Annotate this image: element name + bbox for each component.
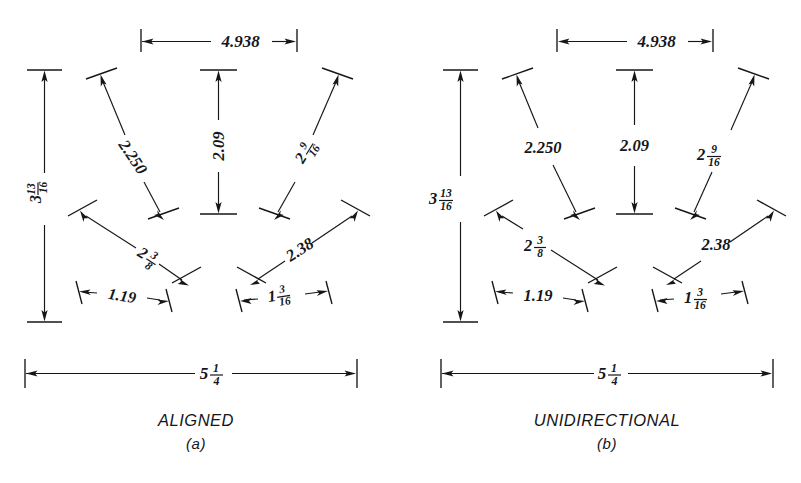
dim-label-2-9-16-b: 2 9 16	[696, 143, 721, 168]
subcaption-b: (b)	[597, 435, 617, 452]
dim-label-209-b: 2.09	[619, 136, 649, 155]
dim-label-238-a: 2.38	[282, 234, 317, 266]
svg-text:2.09: 2.09	[209, 132, 228, 162]
dim-label-1-3-16-a: 1 3 16	[266, 282, 292, 310]
dim-label-2-3-8-b: 2 3 8	[523, 234, 546, 259]
dim-label-2-3-8-a: 2 3 8	[131, 241, 163, 273]
dim-label-1-3-16-b: 1 3 16	[684, 286, 707, 311]
dim-small-left-horizontal-b: 1.19	[492, 281, 588, 312]
svg-text:13: 13	[440, 187, 452, 199]
dim-lower-right-diagonal-b: 2.38	[653, 200, 786, 285]
dim-small-right-horizontal-a: 1 3 16	[236, 281, 332, 312]
engineering-drawing-figure: 4.938 3 13 16 2.09	[0, 0, 801, 483]
svg-text:16: 16	[306, 142, 322, 158]
svg-text:16: 16	[694, 299, 706, 311]
svg-text:4: 4	[611, 374, 618, 388]
dim-top-horizontal-b: 4.938	[557, 29, 713, 52]
dim-label-5-1-4-b: 5 1 4	[598, 361, 621, 388]
svg-text:4: 4	[213, 374, 220, 388]
svg-text:16: 16	[440, 200, 452, 212]
svg-text:2: 2	[523, 236, 532, 255]
svg-text:16: 16	[708, 156, 720, 168]
dim-label-238-b: 2.38	[701, 235, 731, 254]
dim-lower-left-diagonal-a: 2 3 8	[68, 200, 201, 286]
dim-label-2-9-16-a: 2 9 16	[289, 136, 322, 169]
svg-text:1: 1	[611, 361, 617, 375]
dim-lower-left-diagonal-b: 2 3 8	[484, 200, 617, 286]
dim-label-2250-a: 2.250	[114, 135, 151, 177]
dim-label-119-b: 1.19	[524, 286, 553, 305]
dim-upper-left-diagonal-b: 2.250	[502, 68, 595, 220]
dim-label-4938-b: 4.938	[636, 32, 676, 51]
dim-label-209-a: 2.09	[209, 132, 228, 162]
dim-upper-right-diagonal-a: 2 9 16	[259, 68, 353, 220]
svg-text:2.250: 2.250	[114, 135, 151, 177]
svg-text:3: 3	[536, 234, 543, 246]
dim-left-vertical-b: 3 13 16	[428, 70, 478, 322]
svg-text:8: 8	[143, 259, 155, 272]
svg-text:3: 3	[27, 195, 44, 204]
svg-text:5: 5	[200, 364, 209, 383]
svg-text:2.38: 2.38	[282, 234, 317, 266]
svg-text:1: 1	[267, 287, 278, 305]
dim-top-horizontal-a: 4.938	[141, 29, 297, 52]
svg-text:2: 2	[696, 145, 705, 164]
dim-label-5-1-4-a: 5 1 4	[200, 361, 223, 388]
svg-text:3: 3	[277, 282, 286, 295]
panel-unidirectional: 4.938 3 13 16 2.09	[428, 29, 786, 452]
svg-text:1.19: 1.19	[107, 285, 137, 306]
svg-text:16: 16	[278, 294, 291, 308]
svg-text:16: 16	[37, 182, 49, 194]
dim-left-vertical-a: 3 13 16	[25, 70, 63, 322]
dim-small-right-horizontal-b: 1 3 16	[652, 281, 748, 312]
dim-bottom-overall-b: 5 1 4	[441, 359, 773, 388]
dim-label-3-13-16-b: 3 13 16	[428, 187, 453, 212]
svg-text:8: 8	[537, 247, 543, 259]
subcaption-a: (a)	[186, 435, 206, 452]
svg-text:1: 1	[213, 361, 219, 375]
dimensioning-comparison-svg: 4.938 3 13 16 2.09	[0, 0, 801, 483]
svg-text:13: 13	[25, 183, 37, 195]
svg-text:3: 3	[428, 189, 437, 208]
dim-center-vertical-b: 2.09	[616, 70, 653, 214]
dim-label-3-13-16-a: 3 13 16	[25, 182, 49, 205]
dim-label-4938-a: 4.938	[220, 32, 260, 51]
caption-aligned: ALIGNED	[157, 411, 234, 429]
svg-text:5: 5	[598, 364, 607, 383]
svg-text:9: 9	[711, 143, 717, 155]
dim-upper-left-diagonal-a: 2.250	[86, 68, 179, 220]
caption-unidirectional: UNIDIRECTIONAL	[534, 411, 680, 429]
dim-label-119-a: 1.19	[107, 285, 137, 306]
dim-lower-right-diagonal-a: 2.38	[237, 200, 370, 285]
dim-label-2250-b: 2.250	[523, 138, 561, 157]
svg-text:3: 3	[696, 286, 703, 298]
dim-bottom-overall-a: 5 1 4	[25, 359, 357, 388]
panel-aligned: 4.938 3 13 16 2.09	[25, 29, 371, 452]
svg-text:1: 1	[684, 288, 692, 307]
dim-center-vertical-a: 2.09	[200, 70, 237, 214]
dim-upper-right-diagonal-b: 2 9 16	[675, 68, 769, 220]
dim-small-left-horizontal-a: 1.19	[76, 281, 172, 312]
